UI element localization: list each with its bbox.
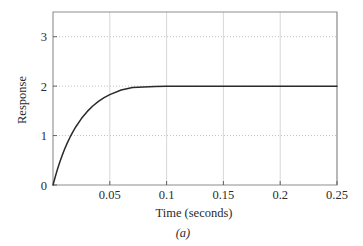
response-plot: 0 1 2 3 0.05 0.1 0.15 0.2 0.25 Time (sec…: [0, 0, 363, 246]
x-tick-label: 0.05: [99, 188, 121, 202]
y-tick-label: 1: [41, 129, 47, 143]
y-tick-labels: 0 1 2 3: [41, 30, 47, 192]
y-tick-label: 0: [41, 179, 47, 193]
y-axis-title: Response: [15, 76, 29, 124]
y-tick-label: 3: [41, 30, 47, 44]
figure-panel: 0 1 2 3 0.05 0.1 0.15 0.2 0.25 Time (sec…: [0, 0, 363, 246]
figure-caption: (a): [176, 226, 191, 240]
x-tick-labels: 0.05 0.1 0.15 0.2 0.25: [99, 188, 348, 202]
y-tick-label: 2: [41, 80, 47, 94]
x-tick-label: 0.2: [272, 188, 288, 202]
x-tick-label: 0.1: [159, 188, 175, 202]
plot-background: [53, 12, 337, 185]
x-tick-label: 0.15: [212, 188, 234, 202]
x-axis-title: Time (seconds): [156, 206, 233, 220]
x-tick-label: 0.25: [326, 188, 348, 202]
